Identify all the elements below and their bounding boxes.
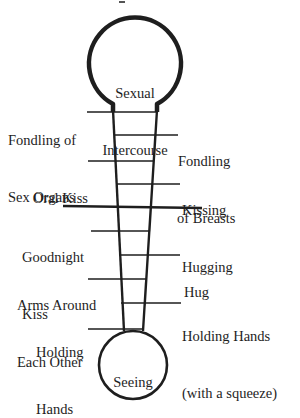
label-line: Fondling of — [8, 131, 86, 150]
top-bulb-line: Intercourse — [95, 141, 175, 160]
top-bulb-line: Sexual — [95, 84, 175, 103]
label-line: Kissing — [182, 201, 233, 220]
label-line: Oral Kiss — [20, 189, 88, 208]
label-line: Hands — [36, 400, 96, 418]
label-line: Holding Hands — [182, 327, 277, 346]
bottom-bulb-line: Seeing — [103, 373, 163, 392]
label-line: (with a squeeze) — [182, 384, 277, 403]
cropped-title-fragment — [119, 1, 125, 3]
step-label-holding-hands: Holding Hands — [36, 305, 96, 418]
label-line: Holding — [36, 343, 96, 362]
step-label-holding-hands-squeeze: Holding Hands (with a squeeze) — [182, 289, 277, 418]
top-bulb-label: Sexual Intercourse — [95, 46, 175, 179]
bottom-bulb-label: Seeing Walking Talking — [103, 335, 163, 418]
